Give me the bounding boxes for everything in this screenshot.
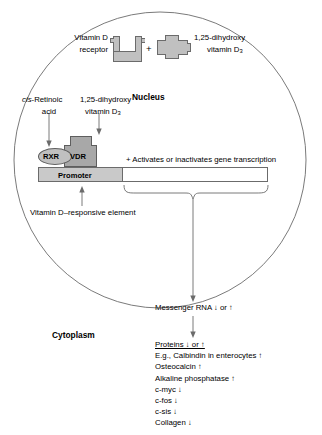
arrow-mrna-to-proteins <box>190 316 195 338</box>
cis-retinoic-rest: -Retinoic <box>32 95 63 104</box>
gene-body-bar <box>121 167 268 182</box>
plus-sign: + <box>146 43 152 54</box>
list-item: Osteocalcin ↑ <box>155 361 262 372</box>
messenger-rna-label: Messenger RNA ↓ or ↑ <box>155 303 233 314</box>
nuclear-calcitriol-line2-text: vitamin D <box>85 107 118 116</box>
vdre-label: Vitamin D–responsive element <box>30 208 136 219</box>
cytoplasm-label: Cytoplasm <box>52 330 95 341</box>
nuclear-calcitriol-label-line1: 1,25-dihydroxy <box>80 95 131 106</box>
transcription-note: + Activates or inactivates gene transcri… <box>126 155 276 166</box>
vitamin-d-receptor-label-line1: Vitamin D <box>38 33 108 44</box>
list-item: c-sis ↓ <box>155 406 262 417</box>
nuclear-calcitriol-label-line2: vitamin D3 <box>85 107 121 119</box>
calcitriol-label-line2: vitamin D3 <box>207 45 243 57</box>
vitamin-d-receptor-label-line2: receptor <box>38 45 108 56</box>
list-item: c-myc ↓ <box>155 384 262 395</box>
calcitriol-subscript: 3 <box>240 48 243 54</box>
calcitriol-label-line1: 1,25-dihydroxy <box>194 33 245 44</box>
cis-retinoic-acid-label-line2: acid <box>22 107 76 118</box>
protein-outputs-list: Proteins ↓ or ↑ E.g., Calbindin in enter… <box>155 339 262 429</box>
nucleus-label: Nucleus <box>132 92 165 103</box>
list-item: Collagen ↓ <box>155 417 262 428</box>
arrow-cis-retinoic-acid <box>46 113 51 147</box>
cis-italic: cis <box>22 95 32 104</box>
arrow-vdre-to-promoter <box>79 186 84 206</box>
list-item: E.g., Calbindin in enterocytes ↑ <box>155 350 262 361</box>
nuclear-calcitriol-subscript: 3 <box>118 110 121 116</box>
list-item: Alkaline phosphatase ↑ <box>155 373 262 384</box>
calcitriol-label-line2-text: vitamin D <box>207 45 240 54</box>
rxr-label: RXR <box>43 152 59 161</box>
vdr-label: VDR <box>70 152 86 161</box>
gene-brace <box>124 185 268 199</box>
cis-retinoic-acid-label-line1: cis-Retinoic <box>22 95 62 106</box>
promoter-label: Promoter <box>58 171 92 180</box>
list-item: c-fos ↓ <box>155 395 262 406</box>
diagram-canvas: Nucleus Cytoplasm Vitamin D receptor + 1… <box>0 0 322 435</box>
arrow-transcription-to-mrna <box>190 199 195 302</box>
proteins-header: Proteins ↓ or ↑ <box>155 339 262 350</box>
